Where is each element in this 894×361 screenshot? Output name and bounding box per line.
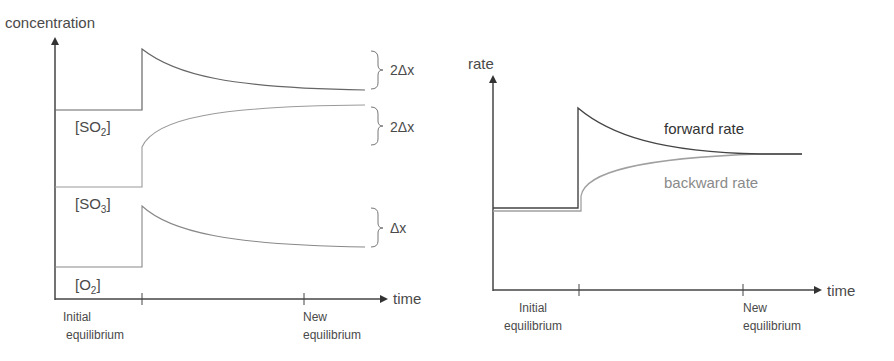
tick-label-initial-2: equilibrium xyxy=(504,319,562,333)
brace-label-so3: 2Δx xyxy=(390,119,414,135)
label-so2: [SO2] xyxy=(75,118,111,138)
brace-so2 xyxy=(371,51,383,89)
equilibrium-diagrams: concentration time Initial equilibrium N… xyxy=(0,0,894,361)
tick-label-initial-2: equilibrium xyxy=(66,328,124,342)
o2-curve xyxy=(55,206,365,267)
rate-chart: rate time Initial equilibrium New equili… xyxy=(468,55,855,333)
y-axis-label-concentration: concentration xyxy=(5,14,95,31)
forward-rate-curve xyxy=(493,108,802,208)
tick-label-new-2: equilibrium xyxy=(743,319,801,333)
tick-label-new: New xyxy=(303,310,327,324)
x-axis-label-time: time xyxy=(393,290,421,307)
forward-rate-label: forward rate xyxy=(664,120,744,137)
y-axis-label-rate: rate xyxy=(468,55,494,72)
tick-label-initial: Initial xyxy=(63,310,91,324)
label-o2: [O2] xyxy=(75,276,101,296)
brace-so3 xyxy=(371,107,383,145)
so2-curve xyxy=(55,49,365,110)
concentration-chart: concentration time Initial equilibrium N… xyxy=(5,14,421,342)
tick-label-new-2: equilibrium xyxy=(303,328,361,342)
label-so3: [SO3] xyxy=(75,195,111,215)
tick-label-initial: Initial xyxy=(519,301,547,315)
brace-label-o2: Δx xyxy=(390,220,406,236)
brace-o2 xyxy=(371,208,383,247)
backward-rate-label: backward rate xyxy=(664,174,758,191)
x-axis-label-time: time xyxy=(827,282,855,299)
so3-curve xyxy=(55,105,365,187)
tick-label-new: New xyxy=(743,301,767,315)
brace-label-so2: 2Δx xyxy=(390,62,414,78)
